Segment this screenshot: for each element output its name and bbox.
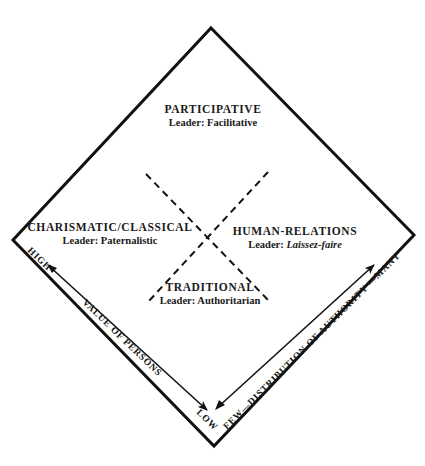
leader-style: Leader: Facilitative <box>169 117 258 128</box>
leader-style: Leader: Laissez-faire <box>248 239 342 250</box>
quadrant-title: PARTICIPATIVE <box>165 103 262 115</box>
leader-style: Leader: Authoritarian <box>160 295 261 306</box>
leader-style: Leader: Paternalistic <box>63 235 158 246</box>
leadership-diamond-diagram: PARTICIPATIVE Leader: Facilitative CHARI… <box>0 0 425 466</box>
quadrant-charismatic-classical: CHARISMATIC/CLASSICAL Leader: Paternalis… <box>27 221 192 246</box>
quadrant-human-relations: HUMAN-RELATIONS Leader: Laissez-faire <box>233 225 357 250</box>
quadrant-title: CHARISMATIC/CLASSICAL <box>27 221 192 233</box>
quadrant-participative: PARTICIPATIVE Leader: Facilitative <box>165 103 262 128</box>
quadrant-traditional: TRADITIONAL Leader: Authoritarian <box>160 281 261 306</box>
axis-label-distribution-of-authority: FEW—DISTRIBUTION OF AUTHORITY —MANY <box>221 250 402 431</box>
quadrant-title: TRADITIONAL <box>165 281 254 293</box>
axis-label-value-of-persons: VALUE OF PERSONS <box>81 297 164 378</box>
quadrant-title: HUMAN-RELATIONS <box>233 225 357 237</box>
